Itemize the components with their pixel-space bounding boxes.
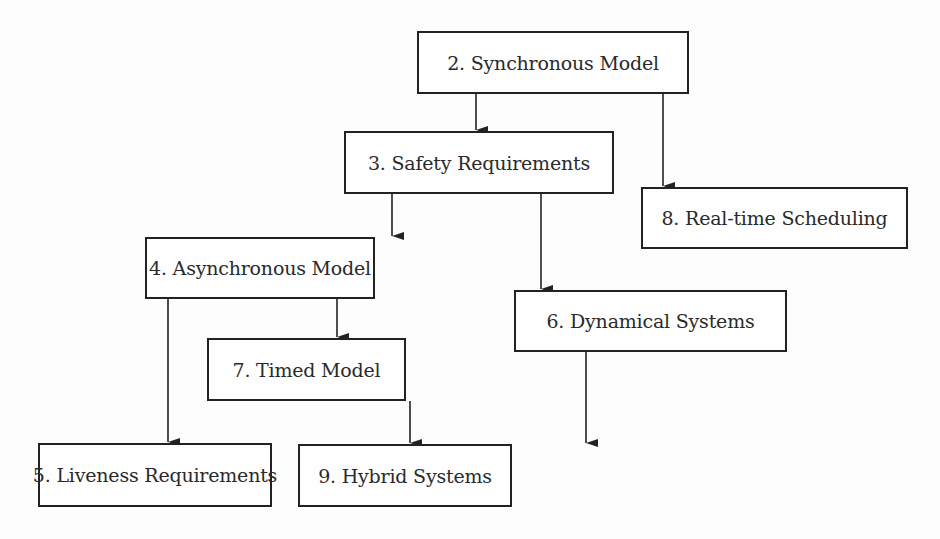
diagram-canvas: 2. Synchronous Model3. Safety Requiremen… xyxy=(0,0,940,539)
node-n2: 2. Synchronous Model xyxy=(417,31,689,94)
node-label: 7. Timed Model xyxy=(233,359,381,381)
node-label: 9. Hybrid Systems xyxy=(318,465,492,487)
node-n7: 7. Timed Model xyxy=(207,338,406,401)
node-n5: 5. Liveness Requirements xyxy=(38,443,272,507)
node-n9: 9. Hybrid Systems xyxy=(298,444,512,507)
node-label: 6. Dynamical Systems xyxy=(546,310,754,332)
node-label: 5. Liveness Requirements xyxy=(33,464,277,486)
node-label: 4. Asynchronous Model xyxy=(149,257,371,279)
node-n6: 6. Dynamical Systems xyxy=(514,290,787,352)
node-n3: 3. Safety Requirements xyxy=(344,131,614,194)
node-label: 3. Safety Requirements xyxy=(368,152,590,174)
node-n8: 8. Real-time Scheduling xyxy=(641,187,908,249)
node-label: 8. Real-time Scheduling xyxy=(661,207,887,229)
node-label: 2. Synchronous Model xyxy=(447,52,659,74)
node-n4: 4. Asynchronous Model xyxy=(145,237,375,299)
